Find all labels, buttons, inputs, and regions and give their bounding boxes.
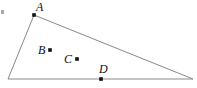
point-label-c: C: [64, 53, 72, 65]
point-marker-b: [48, 48, 52, 52]
point-marker-c: [75, 57, 79, 61]
point-label-a: A: [36, 1, 43, 13]
point-label-d: D: [99, 63, 108, 75]
corner-smudge-mark: [1, 10, 4, 14]
geometry-figure: A B C D: [0, 0, 197, 88]
point-label-b: B: [38, 44, 45, 56]
point-marker-d: [99, 77, 103, 81]
